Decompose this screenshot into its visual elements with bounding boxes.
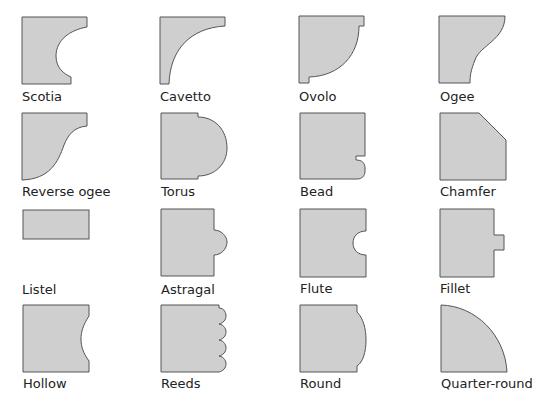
astragal-profile xyxy=(161,209,227,276)
reverse-ogee-profile xyxy=(22,113,87,180)
label-torus: Torus xyxy=(161,185,195,198)
label-round: Round xyxy=(300,377,341,390)
hollow-profile xyxy=(23,305,89,372)
quarter-round-profile xyxy=(441,305,507,372)
chamfer-profile xyxy=(440,113,506,180)
reeds-profile xyxy=(161,305,226,372)
label-scotia: Scotia xyxy=(22,90,62,103)
label-ogee: Ogee xyxy=(440,90,474,103)
moulding-diagram xyxy=(0,0,539,403)
bead-profile xyxy=(300,113,365,179)
label-astragal: Astragal xyxy=(161,283,215,296)
label-flute: Flute xyxy=(300,282,332,295)
label-bead: Bead xyxy=(300,185,333,198)
flute-profile xyxy=(300,209,366,277)
label-ovolo: Ovolo xyxy=(299,90,336,103)
label-listel: Listel xyxy=(22,283,56,296)
scotia-profile xyxy=(22,17,87,84)
label-quarter-round: Quarter-round xyxy=(441,377,533,390)
label-reverse-ogee: Reverse ogee xyxy=(22,185,111,198)
label-cavetto: Cavetto xyxy=(160,90,211,103)
listel-profile xyxy=(23,210,89,239)
torus-profile xyxy=(161,113,227,179)
label-fillet: Fillet xyxy=(440,282,470,295)
ogee-profile xyxy=(439,16,505,83)
round-profile xyxy=(300,305,366,372)
label-reeds: Reeds xyxy=(161,377,200,390)
fillet-profile xyxy=(440,209,504,277)
ovolo-profile xyxy=(299,16,364,83)
label-chamfer: Chamfer xyxy=(440,185,496,198)
cavetto-profile xyxy=(160,17,225,84)
label-hollow: Hollow xyxy=(23,377,67,390)
